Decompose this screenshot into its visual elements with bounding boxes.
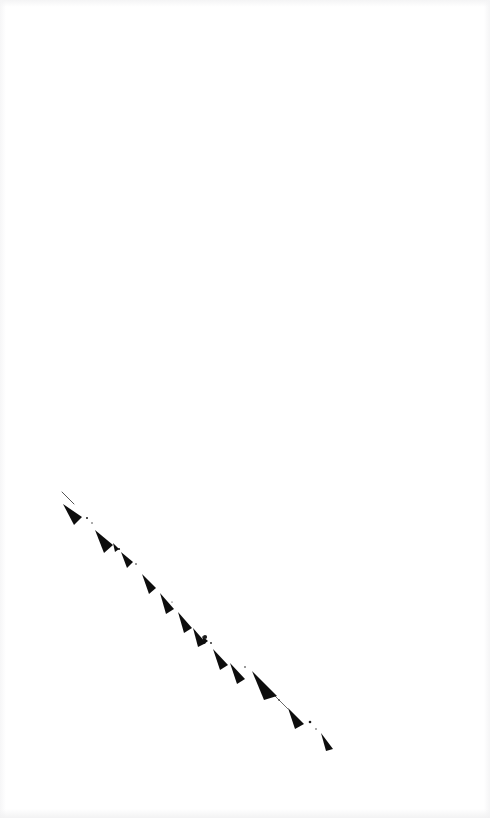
wedge-2 — [95, 530, 113, 553]
speck-4 — [135, 563, 137, 565]
wedge-5 — [160, 593, 174, 614]
wedge-8 — [213, 649, 228, 670]
tail-hairline — [275, 696, 288, 709]
scanned-page — [0, 0, 490, 818]
wedge-3 — [121, 552, 133, 568]
wedge-11 — [288, 708, 304, 729]
wedge-13 — [113, 543, 119, 552]
speck-5 — [203, 635, 207, 639]
speck-9 — [315, 728, 316, 729]
diagonal-dashed-stroke-artwork — [0, 0, 490, 818]
wedge-4 — [142, 574, 156, 594]
wedge-6 — [178, 612, 192, 633]
speck-2 — [91, 522, 92, 523]
speck-10 — [244, 666, 246, 668]
lead-in-hairline — [62, 492, 74, 504]
speck-3 — [118, 548, 120, 550]
wedge-12 — [321, 733, 333, 751]
speck-8 — [309, 721, 312, 724]
wedge-1 — [63, 504, 82, 525]
wedge-9 — [230, 663, 245, 684]
speck-1 — [86, 517, 88, 519]
speck-7 — [278, 699, 280, 701]
speck-6 — [210, 642, 212, 644]
speck-11 — [171, 601, 172, 602]
wedge-10 — [252, 671, 277, 700]
